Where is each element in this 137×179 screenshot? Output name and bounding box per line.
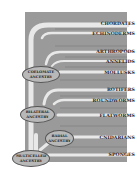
- node-multicelled-line2: ANCESTRY: [16, 159, 46, 163]
- taxon-label-mollusks: MOLLUSKS: [104, 70, 135, 75]
- taxon-label-flatworms: FLATWORMS: [99, 113, 135, 118]
- node-coelomate-line2: ANCESTRY: [28, 75, 54, 79]
- node-bilateral-line2: ANCESTRY: [26, 115, 50, 119]
- node-radial-line1: RADIAL: [48, 134, 70, 138]
- node-radial-ancestry: RADIALANCESTRY: [45, 130, 74, 147]
- node-coelomate-line1: COELOMATE: [28, 70, 54, 74]
- taxon-label-roundworms: ROUNDWORMS: [93, 98, 135, 103]
- taxon-label-arthropods: ARTHROPODS: [96, 49, 135, 54]
- taxon-label-sponges: SPONGES: [109, 152, 135, 157]
- node-bilateral-line1: BILATERAL: [26, 110, 50, 114]
- node-radial-line2: ANCESTRY: [48, 139, 70, 143]
- taxon-label-annelids: ANNELIDS: [106, 59, 135, 64]
- node-coelomate-ancestry: COELOMATEANCESTRY: [22, 66, 60, 83]
- taxon-label-chordates: CHORDATES: [101, 21, 135, 26]
- taxon-label-rotifers: ROTIFERS: [107, 87, 135, 92]
- node-bilateral-ancestry: BILATERALANCESTRY: [20, 106, 55, 123]
- node-multicelled-line1: MULTICELLED: [16, 154, 46, 158]
- taxon-label-echinoderms: ECHINODERMS: [92, 31, 135, 36]
- taxon-label-cnidarians: CNIDARIANS: [99, 135, 135, 140]
- node-multicelled-ancestry: MULTICELLEDANCESTRY: [12, 150, 50, 167]
